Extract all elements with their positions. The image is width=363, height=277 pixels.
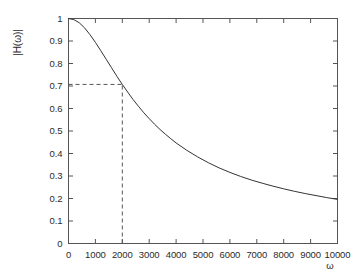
data-series [69, 19, 338, 200]
x-axis-label: ω [316, 260, 344, 271]
plot-border [69, 19, 338, 244]
magnitude-response-chart: |H(ω)| ω 00.10.20.30.40.50.60.70.80.91 0… [0, 0, 363, 277]
y-axis-ticks [69, 19, 338, 244]
y-tick-label: 0.2 [29, 194, 63, 204]
y-tick-label: 1 [29, 14, 63, 24]
y-tick-label: 0.5 [29, 126, 63, 136]
y-tick-label: 0.7 [29, 81, 63, 91]
y-axis-label: |H(ω)| [12, 13, 23, 73]
y-tick-label: 0.4 [29, 149, 63, 159]
cutoff-annotations [69, 84, 123, 243]
y-tick-label: 0.1 [29, 216, 63, 226]
y-tick-label: 0.6 [29, 104, 63, 114]
y-tick-label: 0.3 [29, 171, 63, 181]
y-tick-label: 0.8 [29, 59, 63, 69]
y-tick-label: 0 [29, 239, 63, 249]
plot-frame [69, 19, 338, 244]
x-axis-ticks [69, 19, 338, 244]
y-tick-label: 0.9 [29, 36, 63, 46]
x-tick-label: 10000 [318, 250, 358, 260]
series-line [69, 19, 338, 200]
